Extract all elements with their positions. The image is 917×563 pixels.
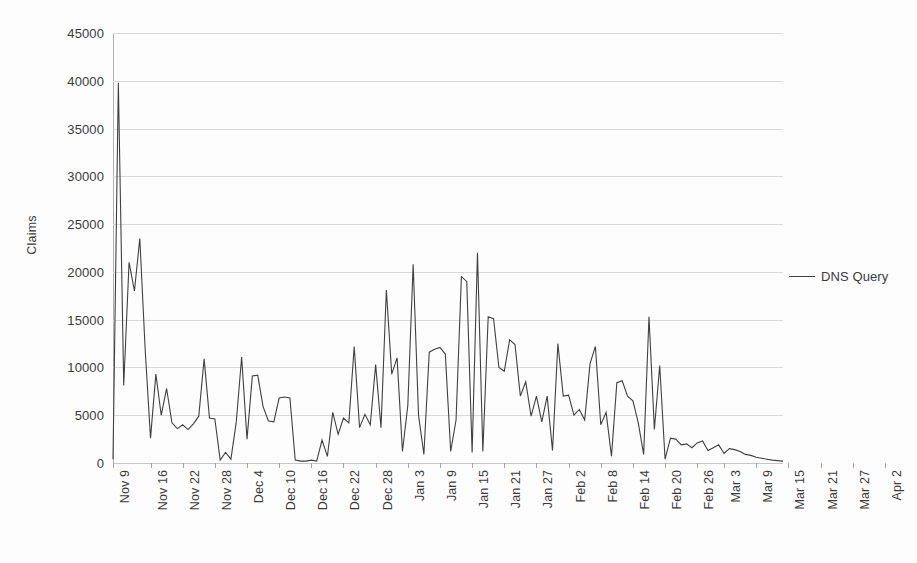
x-tick [247,463,248,468]
x-tick-label: Feb 8 [606,470,620,502]
x-tick [504,463,505,468]
x-tick-label: Apr 2 [890,470,904,500]
x-tick-label: Feb 20 [670,470,684,510]
x-tick-label: Mar 3 [729,470,743,502]
x-tick-label: Nov 22 [188,470,202,510]
x-tick-label: Feb 26 [702,470,716,510]
x-tick-label: Mar 15 [793,470,807,510]
y-tick-label: 10000 [42,360,104,375]
y-tick-label: 40000 [42,73,104,88]
x-tick-label: Mar 21 [826,470,840,510]
y-tick-label: 35000 [42,121,104,136]
y-tick-label: 45000 [42,26,104,41]
x-tick-label: Nov 28 [220,470,234,510]
x-axis-tick-labels: Nov 9Nov 16Nov 22Nov 28Dec 4Dec 10Dec 16… [113,470,783,560]
x-tick-label: Nov 16 [156,470,170,510]
x-tick [440,463,441,468]
x-tick-label: Dec 16 [316,470,330,510]
x-tick [343,463,344,468]
y-tick-label: 25000 [42,217,104,232]
y-tick-label: 30000 [42,169,104,184]
x-tick [853,463,854,468]
x-tick [821,463,822,468]
x-tick [151,463,152,468]
series-dns-query [113,33,783,463]
x-tick [885,463,886,468]
x-tick [215,463,216,468]
x-tick [788,463,789,468]
legend: DNS Query [789,269,888,284]
legend-line-marker [789,276,815,277]
chart-container: Claims 050001000015000200002500030000350… [0,0,917,563]
x-tick-label: Dec 28 [381,470,395,510]
x-tick [408,463,409,468]
series-line-dns-query [113,83,783,461]
x-tick [472,463,473,468]
x-tick-label: Mar 9 [761,470,775,502]
y-tick-label: 15000 [42,312,104,327]
plot-area [113,33,783,463]
x-tick [697,463,698,468]
x-tick-label: Jan 3 [413,470,427,501]
x-tick [183,463,184,468]
x-tick-label: Mar 27 [858,470,872,510]
x-tick [756,463,757,468]
x-tick-label: Dec 22 [348,470,362,510]
x-tick-label: Dec 10 [284,470,298,510]
x-tick-label: Jan 21 [509,470,523,508]
y-tick-label: 5000 [42,408,104,423]
x-tick-label: Jan 15 [477,470,491,508]
x-tick [279,463,280,468]
x-tick [601,463,602,468]
x-tick [569,463,570,468]
x-tick [113,463,114,468]
x-tick [665,463,666,468]
y-tick-label: 20000 [42,264,104,279]
x-tick [633,463,634,468]
x-tick-label: Feb 14 [638,470,652,510]
x-tick [311,463,312,468]
x-tick-label: Feb 2 [574,470,588,502]
y-axis-tick-labels: 0500010000150002000025000300003500040000… [38,0,104,563]
x-tick [536,463,537,468]
y-tick-label: 0 [42,456,104,471]
y-axis-title-label: Claims [25,215,39,254]
x-tick [376,463,377,468]
x-tick [724,463,725,468]
x-tick-label: Dec 4 [252,470,266,503]
x-tick-label: Nov 9 [118,470,132,503]
legend-label-dns-query: DNS Query [821,269,888,284]
x-tick-label: Jan 9 [445,470,459,501]
x-tick-label: Jan 27 [541,470,555,508]
